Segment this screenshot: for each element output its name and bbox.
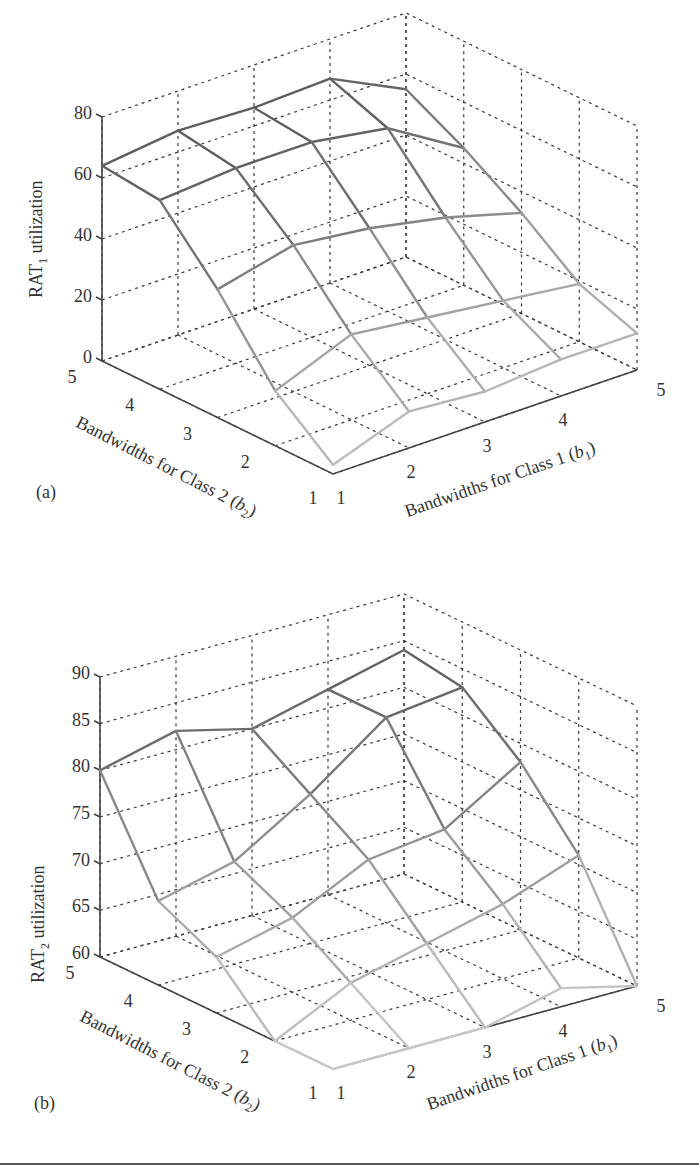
surface-edge (236, 168, 294, 245)
surface-edge (427, 301, 503, 318)
surface-edge (100, 731, 176, 770)
surface-edge (446, 213, 522, 218)
surface-edge (328, 650, 404, 689)
surface-edge (409, 1028, 485, 1049)
surface-edge (293, 860, 369, 918)
surface-edge (294, 228, 370, 245)
b1-tick-label: 2 (407, 462, 416, 482)
surface-edge (561, 333, 637, 359)
panel-label-b: (b) (34, 1093, 55, 1114)
surface-edge (234, 794, 310, 861)
bottom-divider (0, 1163, 699, 1165)
b1-tick-label: 5 (657, 996, 666, 1016)
surface-edge (485, 359, 561, 391)
surface-edge (561, 986, 637, 988)
grid-line (178, 335, 409, 448)
b2-tick-label: 2 (241, 452, 250, 472)
surface-plot-b: 606570758085901234512345 RAT2 utilizatio… (0, 540, 699, 1120)
z-tick (96, 236, 102, 239)
surface-plot-a: 0204060801234512345 RAT1 utilization Ban… (0, 0, 699, 520)
surface-edge (503, 904, 561, 988)
b1-tick-label: 1 (337, 1083, 346, 1103)
grid-line (102, 13, 637, 126)
b1-tick-label: 5 (657, 380, 666, 400)
surface-edge (275, 391, 333, 465)
z-tick (94, 954, 100, 957)
z-tick-label: 0 (83, 347, 92, 367)
surface-edge (176, 729, 252, 731)
surface-edge (369, 829, 445, 859)
surface-edge (579, 284, 637, 334)
z-label-suffix: utilization (28, 866, 48, 943)
surface-edge (351, 944, 427, 983)
surface-edge (252, 729, 310, 794)
surface-edge (521, 762, 579, 855)
grid-line (100, 781, 637, 893)
surface-edge (236, 142, 312, 168)
b2-tick-label: 3 (182, 1019, 191, 1039)
b2-tick-label: 4 (124, 991, 133, 1011)
grid-line (102, 257, 637, 370)
z-tick-label: 80 (72, 756, 90, 776)
surface-edge (386, 717, 444, 829)
surface-edge (370, 218, 446, 229)
z-tick (96, 175, 102, 178)
surface-edge (102, 166, 160, 200)
surface-edge (370, 228, 428, 317)
b1-tick-label: 4 (559, 410, 568, 430)
z-tick-label: 75 (72, 803, 90, 823)
surface-edge (293, 918, 351, 983)
surface-edge (254, 79, 330, 108)
surface-edge (503, 284, 579, 301)
z-tick (94, 721, 100, 724)
z-tick-label: 85 (72, 710, 90, 730)
surface-edge (275, 1041, 333, 1069)
z-tick (94, 861, 100, 864)
z-tick (94, 674, 100, 677)
surface-edge (446, 218, 504, 301)
z-label-sub: 2 (38, 943, 52, 949)
z-tick-label: 65 (72, 896, 90, 916)
z-tick (96, 358, 102, 361)
surface-edge (176, 731, 234, 862)
surface-edge (462, 687, 520, 762)
b1-tick-label: 2 (407, 1062, 416, 1082)
b2-tick-label: 3 (183, 424, 192, 444)
b1-tick-label: 3 (483, 436, 492, 456)
grid-line (328, 895, 561, 1007)
surface-edge (158, 901, 216, 957)
z-axis-label-b: RAT2 utilization (28, 866, 53, 984)
surface-edge (333, 1048, 409, 1069)
surface-edge (178, 108, 254, 131)
b2-tick-label: 2 (240, 1047, 249, 1067)
surface-edge (464, 148, 522, 213)
b2-tick-label: 4 (125, 395, 134, 415)
surface-edge (310, 794, 368, 859)
z-tick (96, 297, 102, 300)
b1-tick-label: 1 (337, 488, 346, 508)
surface-edge (252, 689, 328, 728)
surface-edge (100, 770, 158, 901)
z-label-sub: 1 (36, 258, 50, 264)
surface-edge (312, 128, 388, 142)
grid-line (100, 874, 637, 986)
axes (102, 117, 637, 474)
b2-tick-label: 1 (309, 488, 318, 508)
surface-edge (404, 650, 462, 687)
surface-edge (218, 245, 294, 289)
grid-line (100, 594, 637, 706)
surface-edge (369, 860, 427, 944)
z-axis-label-a: RAT1 utilization (26, 181, 51, 299)
surface-edge (503, 301, 561, 360)
surface-edge (158, 862, 234, 901)
surface-edge (445, 762, 521, 829)
surface-edge (328, 689, 386, 717)
surface-edge (427, 904, 503, 943)
surface-edge (310, 717, 386, 794)
surface-edge (275, 334, 351, 391)
surface-edge (409, 392, 485, 412)
grid-line (275, 958, 579, 1041)
z-tick-label: 80 (74, 103, 92, 123)
z-tick (96, 114, 102, 117)
z-tick-label: 60 (74, 164, 92, 184)
